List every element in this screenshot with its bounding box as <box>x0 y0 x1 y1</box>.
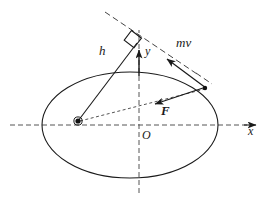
focus-marker <box>75 118 80 123</box>
label-origin: O <box>142 129 151 141</box>
orbit-diagram-svg <box>0 0 268 204</box>
label-y: y <box>145 45 150 57</box>
momentum-vector-arrow <box>167 59 206 88</box>
perpendicular-distance-line <box>78 43 137 121</box>
label-force: F <box>161 104 170 117</box>
physics-diagram-figure: h y mv F O x <box>0 0 268 204</box>
label-x-axis: x <box>248 125 253 137</box>
label-h: h <box>99 44 106 57</box>
force-vector-arrow <box>155 87 206 104</box>
label-mv: mv <box>176 36 191 49</box>
particle-marker <box>203 86 207 90</box>
